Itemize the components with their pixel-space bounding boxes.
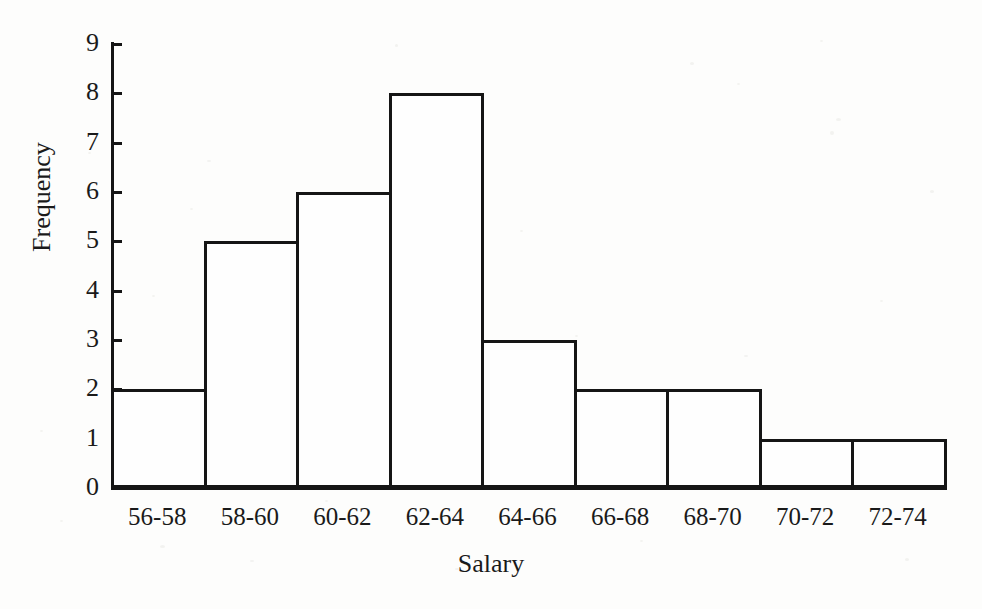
scan-speck	[905, 558, 909, 561]
scan-speck	[836, 118, 841, 121]
histogram-bar	[574, 389, 670, 488]
scan-speck	[207, 160, 211, 162]
scan-speck	[820, 40, 823, 42]
x-axis-tick-label: 62-64	[389, 503, 482, 531]
histogram-page: 0123456789 56-5858-6060-6262-6464-6666-6…	[0, 0, 982, 609]
scan-speck	[250, 560, 254, 562]
scan-speck	[88, 152, 91, 154]
scan-speck	[830, 131, 834, 135]
y-axis-tick-label: 3	[59, 326, 99, 352]
histogram-bar	[481, 340, 577, 488]
x-axis-tick-label: 68-70	[666, 503, 759, 531]
scan-speck	[60, 520, 63, 522]
x-axis-tick-label: 60-62	[296, 503, 389, 531]
y-axis-tick-label: 9	[59, 30, 99, 56]
scan-speck	[880, 300, 883, 302]
y-axis-tick-label: 8	[59, 79, 99, 105]
y-axis-tick-label: 0	[59, 474, 99, 500]
x-axis-tick-label: 58-60	[204, 503, 297, 531]
x-axis-tick-label: 66-68	[574, 503, 667, 531]
scan-speck	[744, 355, 748, 357]
x-axis-tick-label: 72-74	[851, 503, 944, 531]
scan-speck	[40, 430, 43, 432]
scan-speck	[325, 500, 328, 502]
histogram-bar	[389, 93, 485, 488]
plot-area	[111, 44, 944, 488]
x-axis-tick-label: 64-66	[481, 503, 574, 531]
histogram-bar	[666, 389, 762, 488]
x-axis-title: Salary	[0, 549, 982, 579]
y-axis-tick-label: 1	[59, 425, 99, 451]
y-axis-tick-label: 4	[59, 277, 99, 303]
scan-speck	[737, 83, 740, 85]
histogram-bar	[111, 389, 207, 488]
scan-speck	[575, 335, 578, 337]
histogram-bar	[851, 439, 947, 488]
scan-speck	[395, 44, 398, 47]
y-axis-tick-label: 5	[59, 227, 99, 253]
scan-speck	[152, 295, 155, 297]
x-axis-tick-label: 70-72	[759, 503, 852, 531]
histogram-bar	[759, 439, 855, 488]
scan-speck	[690, 62, 694, 65]
y-axis-tick-label: 6	[59, 178, 99, 204]
y-axis-title: Frequency	[27, 112, 57, 282]
histogram-bar	[204, 241, 300, 488]
histogram-bar	[296, 192, 392, 488]
scan-speck	[930, 190, 934, 193]
salary-frequency-histogram: 0123456789 56-5858-6060-6262-6464-6666-6…	[0, 0, 982, 609]
y-axis-tick-label: 7	[59, 129, 99, 155]
scan-speck	[640, 540, 643, 542]
x-axis-tick-label: 56-58	[111, 503, 204, 531]
scan-speck	[160, 545, 165, 548]
scan-speck	[520, 230, 523, 232]
scan-speck	[455, 568, 459, 570]
y-axis-tick-label: 2	[59, 375, 99, 401]
scan-speck	[190, 208, 193, 210]
